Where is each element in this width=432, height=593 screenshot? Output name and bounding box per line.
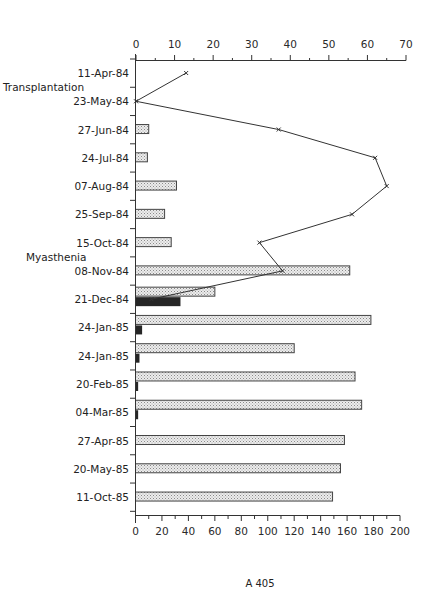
stippled-bar	[136, 125, 149, 134]
row-label: 04-Mar-85	[4, 406, 129, 418]
row-label: 07-Aug-84	[4, 180, 129, 192]
row-label: 24-Jan-85	[4, 350, 129, 362]
row-label: 11-Apr-84	[4, 67, 129, 79]
row-label: 24-Jul-84	[4, 152, 129, 164]
bottom-tick-label: 120	[284, 525, 304, 537]
stippled-bar	[136, 372, 356, 381]
stippled-bar	[136, 492, 333, 501]
annotation-transplantation: Transplantation	[3, 81, 84, 93]
stippled-bar	[136, 266, 350, 275]
top-tick-label: 30	[245, 38, 258, 50]
row-label: 23-May-84	[4, 95, 129, 107]
bottom-tick-label: 140	[311, 525, 331, 537]
row-label: 08-Nov-84	[4, 265, 129, 277]
row-label: 20-Feb-85	[4, 378, 129, 390]
top-tick-label: 60	[361, 38, 374, 50]
stippled-bar	[136, 238, 172, 247]
top-tick-label: 70	[399, 38, 412, 50]
stippled-bar	[136, 315, 371, 324]
bottom-tick-label: 180	[364, 525, 384, 537]
x-marker-icon	[184, 71, 188, 75]
x-marker-icon	[385, 184, 389, 188]
top-tick-label: 10	[168, 38, 181, 50]
bottom-tick-label: 60	[208, 525, 221, 537]
figure-caption: A 405	[200, 578, 320, 589]
row-label: 21-Dec-84	[4, 293, 129, 305]
top-tick-label: 50	[322, 38, 335, 50]
dark-bar	[136, 325, 143, 334]
row-label: 15-Oct-84	[4, 237, 129, 249]
stippled-bar	[136, 344, 295, 353]
top-tick-label: 40	[284, 38, 297, 50]
stippled-bar	[136, 209, 165, 218]
row-label: 24-Jan-85	[4, 321, 129, 333]
bottom-tick-label: 100	[258, 525, 278, 537]
bottom-tick-label: 40	[182, 525, 195, 537]
bottom-tick-label: 80	[235, 525, 248, 537]
top-axis: 010203040506070	[133, 38, 413, 61]
y-ticks	[130, 59, 136, 511]
top-tick-label: 0	[133, 38, 140, 50]
stippled-bar	[136, 181, 177, 190]
dark-bar	[136, 297, 181, 306]
annotation-myasthenia: Myasthenia	[26, 251, 86, 263]
row-label: 25-Sep-84	[4, 208, 129, 220]
stippled-bar	[136, 464, 341, 473]
bottom-tick-label: 0	[132, 525, 139, 537]
row-label: 27-Jun-84	[4, 124, 129, 136]
bottom-tick-label: 20	[155, 525, 168, 537]
top-tick-label: 20	[206, 38, 219, 50]
row-label: 20-May-85	[4, 463, 129, 475]
stippled-bar	[136, 436, 345, 445]
row-label: 27-Apr-85	[4, 435, 129, 447]
bottom-axis: 020406080100120140160180200	[132, 516, 410, 538]
row-label: 11-Oct-85	[4, 491, 129, 503]
bars-group	[136, 125, 371, 502]
bottom-tick-label: 160	[337, 525, 357, 537]
stippled-bar	[136, 400, 362, 409]
stippled-bar	[136, 153, 148, 162]
bottom-tick-label: 200	[390, 525, 410, 537]
dark-bar	[136, 354, 140, 363]
